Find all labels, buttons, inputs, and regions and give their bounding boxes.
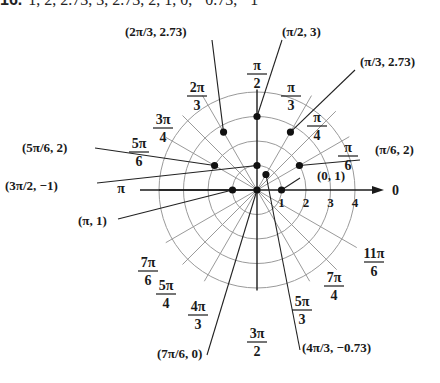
data-point	[253, 113, 260, 120]
data-point	[229, 186, 236, 193]
angle-label: π	[117, 181, 125, 196]
angle-numerator: 2π	[190, 80, 205, 95]
data-point	[262, 171, 269, 178]
radial-grid-line	[257, 190, 337, 270]
data-point	[296, 162, 303, 169]
point-label: (7π/6, 0)	[157, 346, 202, 361]
angle-denominator: 6	[371, 264, 378, 279]
angle-denominator: 3	[195, 317, 202, 332]
angle-label-text: π	[117, 181, 125, 196]
leader-line	[290, 70, 355, 132]
angle-numerator: 3π	[156, 112, 171, 127]
angle-numerator: π	[344, 140, 352, 155]
angle-numerator: 5π	[295, 294, 310, 309]
angle-denominator: 4	[160, 130, 167, 145]
radial-grid-line	[166, 137, 257, 190]
leader-line	[212, 40, 224, 132]
angle-numerator: 4π	[191, 299, 206, 314]
point-label: (5π/6, 2)	[22, 140, 67, 155]
radial-tick-label: 4	[352, 195, 359, 210]
angle-denominator: 6	[145, 273, 152, 288]
angle-label: 7π4	[324, 270, 344, 303]
radial-grid-line	[204, 190, 257, 281]
angle-label: 11π6	[364, 246, 385, 279]
angle-denominator: 3	[288, 98, 295, 113]
angle-numerator: 5π	[159, 278, 174, 293]
angle-label: 7π6	[138, 255, 158, 288]
radial-tick-label: 2	[303, 195, 310, 210]
angle-denominator: 4	[163, 296, 170, 311]
radial-tick-label: 1	[278, 195, 285, 210]
data-point	[287, 128, 294, 135]
point-label: (3π/2, −1)	[5, 178, 58, 193]
angle-numerator: π	[253, 58, 261, 73]
angle-denominator: 6	[345, 158, 352, 173]
chart-labels: 12340π6π4π3π22π33π45π6π7π65π44π33π25π37π…	[5, 24, 415, 361]
data-point	[253, 186, 260, 193]
angle-numerator: 11π	[364, 246, 385, 261]
angle-numerator: 7π	[327, 270, 342, 285]
radial-grid-line	[202, 96, 257, 190]
angle-label: 5π6	[129, 136, 149, 169]
leader-line	[118, 190, 233, 219]
angle-label: 3π2	[247, 326, 267, 359]
angle-denominator: 4	[314, 128, 321, 143]
polar-plot: 12340π6π4π3π22π33π45π6π7π65π44π33π25π37π…	[0, 0, 440, 383]
data-point	[253, 162, 260, 169]
angle-numerator: 3π	[250, 326, 265, 341]
point-label: (2π/3, 2.73)	[125, 24, 187, 39]
angle-label: π2	[247, 58, 267, 91]
data-point	[211, 162, 218, 169]
point-label: (0, 1)	[317, 168, 345, 183]
angle-numerator: π	[313, 110, 321, 125]
radial-tick-label: 3	[327, 195, 334, 210]
angle-label: π4	[307, 110, 327, 143]
leader-line	[257, 40, 282, 117]
leader-lines	[95, 40, 360, 355]
point-label: (4π/3, −0.73)	[302, 340, 371, 355]
point-label: (π/6, 2)	[375, 142, 414, 157]
angle-denominator: 3	[299, 312, 306, 327]
angle-numerator: 5π	[132, 136, 147, 151]
angle-numerator: 7π	[141, 255, 156, 270]
angle-label: π3	[281, 80, 301, 113]
point-label: (π/2, 3)	[282, 24, 321, 39]
arrow-icon	[372, 186, 384, 194]
angle-label: 4π3	[188, 299, 208, 332]
point-label: (π/3, 2.73)	[360, 54, 415, 69]
angle-denominator: 6	[136, 154, 143, 169]
angle-numerator: π	[287, 80, 295, 95]
data-point	[278, 186, 285, 193]
angle-denominator: 2	[254, 344, 261, 359]
angle-denominator: 2	[254, 76, 261, 91]
point-label: (π, 1)	[78, 213, 107, 228]
angle-denominator: 3	[194, 98, 201, 113]
leader-line	[95, 148, 215, 166]
angle-label: 5π4	[156, 278, 176, 311]
angle-denominator: 4	[331, 288, 338, 303]
data-point	[220, 128, 227, 135]
polar-axis-label: 0	[392, 183, 399, 198]
